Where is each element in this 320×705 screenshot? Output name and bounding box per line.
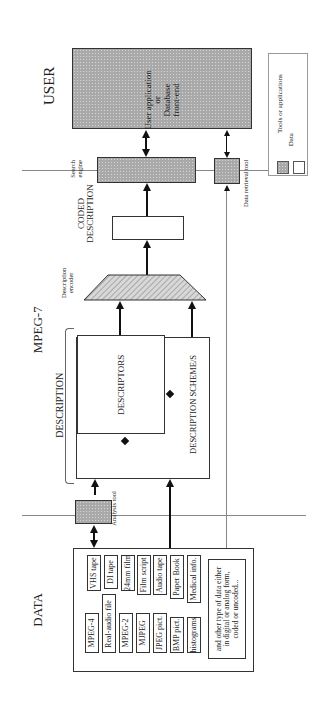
arrow-descriptors-encoder xyxy=(119,308,121,336)
section-label-mpeg7: MPEG-7 xyxy=(31,300,45,360)
analysis-tool-box xyxy=(75,500,112,524)
arrowhead-up xyxy=(224,130,230,136)
arrowhead-up xyxy=(166,479,174,487)
arrow-data-schemes xyxy=(169,485,171,549)
data-item-mjpeg: MJPEG xyxy=(136,613,150,653)
user-application-label: User application or Database front-end xyxy=(144,60,182,140)
section-label-user: USER xyxy=(42,56,58,116)
descriptors-label: DESCRIPTORS xyxy=(117,345,126,425)
arrow-schemes-encoder xyxy=(191,308,193,338)
arrow-coded-search xyxy=(146,190,148,216)
data-item-mpeg4: MPEG-4 xyxy=(85,613,99,653)
data-retrieval-tool-box xyxy=(214,158,240,184)
arrowhead-up xyxy=(143,240,151,248)
section-label-description: DESCRIPTION xyxy=(55,365,66,445)
arrowhead-up xyxy=(224,185,230,191)
analysis-tool-label: Analysis tool xyxy=(111,486,118,530)
data-item-24mm-film: 24mm film xyxy=(121,555,135,591)
data-note-box: and other type of data either in digital… xyxy=(208,559,246,659)
legend-swatch-tools xyxy=(277,161,289,174)
data-retrieval-tool-label: Data retrieval tool xyxy=(243,151,250,215)
description-encoder-trapezoid xyxy=(82,274,208,302)
arrowhead-up xyxy=(143,183,151,191)
search-engine-label: Search engine xyxy=(70,156,84,182)
data-item-medical-info: Medical info. xyxy=(187,555,201,603)
legend: Tools or applications Data xyxy=(268,53,308,176)
divider-mpeg7-data-right xyxy=(110,515,306,516)
retrieval-link-line xyxy=(226,186,227,550)
coded-description-label: CODED DESCRIPTION xyxy=(77,183,96,243)
arrowhead-down xyxy=(224,152,230,158)
user-application-box: User application or Database front-end xyxy=(72,48,252,129)
data-item-mpeg2: MPEG-2 xyxy=(119,613,133,653)
search-engine-box xyxy=(97,157,196,183)
arrowhead-up xyxy=(142,130,150,138)
data-item-vhs: VHS tape xyxy=(87,555,101,591)
arrowhead-down xyxy=(90,540,98,548)
arrowhead-up xyxy=(116,301,124,309)
data-box: MPEG-4 Real-audio file MPEG-2 MJPEG JPEG… xyxy=(73,548,254,672)
data-item-real-audio: Real-audio file xyxy=(102,594,116,653)
arrowhead-up xyxy=(188,301,196,309)
arrow-user-retrieval xyxy=(226,134,227,154)
arrowhead-up xyxy=(90,525,98,533)
description-encoder-label: Description encoder xyxy=(61,263,75,303)
mpeg7-diagram: USER MPEG-7 DATA DESCRIPTION User applic… xyxy=(0,0,320,705)
data-item-film-script: Film script xyxy=(137,555,151,595)
data-item-bmp: BMP pict. xyxy=(170,617,184,653)
legend-label-data: Data xyxy=(288,130,295,150)
data-item-jpeg: JPEG pict. xyxy=(153,613,167,653)
arrowhead-down xyxy=(142,149,150,157)
descriptors-box: DESCRIPTORS xyxy=(77,335,165,434)
data-item-audio-tape: Audio tape xyxy=(153,555,167,595)
coded-description-box xyxy=(112,216,184,240)
legend-label-tools: Tools or applications xyxy=(277,64,284,144)
data-item-histograms: histograms xyxy=(187,617,201,653)
description-schemes-label: DESCRIPTION SCHEME/S xyxy=(189,354,198,454)
data-item-paper-book: Paper Book xyxy=(170,555,184,599)
arrow-encoder-coded xyxy=(146,248,148,276)
legend-swatch-data xyxy=(293,161,305,174)
description-bracket xyxy=(65,328,74,484)
arrowhead-up xyxy=(91,479,99,487)
section-label-data: DATA xyxy=(31,582,45,638)
data-item-di-tape: DI tape xyxy=(104,555,118,589)
